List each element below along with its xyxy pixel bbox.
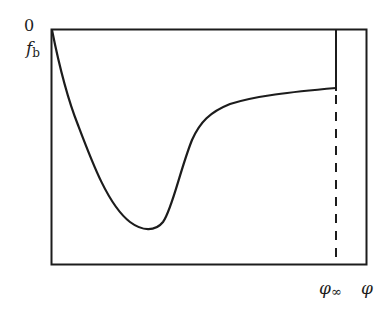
x-limit-symbol: φ — [319, 278, 331, 298]
fb-curve — [52, 30, 336, 229]
origin-label: 0 — [24, 16, 34, 35]
x-axis-label-phi: φ — [361, 278, 373, 298]
y-axis-label-fb: fb — [26, 38, 40, 60]
x-limit-subscript: ∞ — [331, 284, 342, 299]
x-limit-label-phi-infinity: φ∞ — [319, 278, 342, 299]
y-subscript: b — [32, 46, 40, 60]
plot-frame — [52, 30, 367, 265]
diagram-figure — [0, 0, 392, 313]
